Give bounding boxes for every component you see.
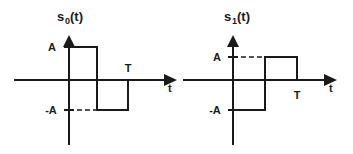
chart-s1-title-suffix: (t) <box>237 9 250 24</box>
chart-s1-title: s 1 (t) <box>224 9 250 26</box>
chart-s1-amplitude-axis-arrow-icon <box>227 35 239 47</box>
chart-s1: s 1 (t) t A -A T <box>183 9 337 145</box>
chart-s0-xlabel: t <box>168 82 172 94</box>
chart-s0-amplitude-axis-arrow-icon <box>63 35 75 47</box>
waveform-canvas: s 0 (t) t A -A T <box>0 0 353 154</box>
chart-s0-time-mark-label: T <box>125 62 132 74</box>
waveform-figure: s 0 (t) t A -A T <box>0 0 353 154</box>
chart-s0-level-label-negative: -A <box>45 104 57 116</box>
chart-s1-level-label-negative: -A <box>209 104 221 116</box>
chart-s0-signal-trace <box>69 47 128 110</box>
chart-s0-title-suffix: (t) <box>70 9 83 24</box>
chart-s1-level-label-positive: A <box>213 51 221 63</box>
chart-s1-title-base: s <box>224 9 231 24</box>
chart-s0-title-base: s <box>57 9 64 24</box>
chart-s1-time-mark-label: T <box>294 89 301 101</box>
chart-s1-xlabel: t <box>329 82 333 94</box>
chart-s1-signal-trace <box>233 57 297 110</box>
chart-s0-title: s 0 (t) <box>57 9 83 26</box>
chart-s0-level-label-positive: A <box>48 41 56 53</box>
chart-s0: s 0 (t) t A -A T <box>14 9 177 145</box>
